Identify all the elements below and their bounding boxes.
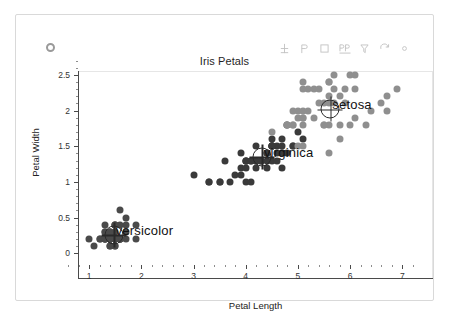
y-tick-minor <box>76 239 78 240</box>
x-tick-minor <box>152 265 153 267</box>
rectangle-select-icon[interactable] <box>318 42 331 55</box>
data-point <box>362 121 369 128</box>
data-point <box>232 171 239 178</box>
data-point <box>326 150 333 157</box>
data-point <box>352 86 359 93</box>
x-tick-minor <box>340 265 341 267</box>
y-axis-line <box>78 71 79 279</box>
y-tick-minor <box>76 139 78 140</box>
y-tick-minor <box>76 96 78 97</box>
pan-icon[interactable] <box>298 42 311 55</box>
x-tick-minor <box>120 265 121 267</box>
data-point <box>321 121 328 128</box>
x-tick <box>89 265 90 269</box>
data-point <box>383 93 390 100</box>
y-tick-minor <box>76 225 78 226</box>
data-point <box>221 157 228 164</box>
x-axis-line <box>78 278 433 279</box>
data-point <box>300 78 307 85</box>
y-tick-minor <box>76 82 78 83</box>
page-title: Iris Petals <box>16 55 433 67</box>
data-point <box>383 107 390 114</box>
x-tick-minor <box>392 265 393 267</box>
data-point <box>122 214 129 221</box>
x-tick <box>194 265 195 269</box>
x-tick-minor <box>79 265 80 267</box>
data-point <box>310 114 317 121</box>
y-tick-label: 2 <box>70 106 75 116</box>
cluster-label: virginica <box>264 144 313 159</box>
x-tick-minor <box>131 265 132 267</box>
x-tick-minor <box>371 265 372 267</box>
y-tick-minor <box>76 132 78 133</box>
axes-move-icon[interactable] <box>278 42 291 55</box>
data-point <box>305 86 312 93</box>
data-point <box>284 121 291 128</box>
y-tick-minor <box>76 232 78 233</box>
data-point <box>394 86 401 93</box>
data-point <box>91 243 98 250</box>
y-tick-label: 1 <box>70 177 75 187</box>
chart-toolbar[interactable] <box>278 42 411 55</box>
x-tick-minor <box>183 265 184 267</box>
data-point <box>378 100 385 107</box>
x-tick-minor <box>329 265 330 267</box>
data-point <box>242 164 249 171</box>
y-tick-minor <box>76 203 78 204</box>
x-tick-minor <box>235 265 236 267</box>
y-tick-minor <box>76 196 78 197</box>
text-annotate-icon[interactable] <box>338 42 351 55</box>
data-point <box>206 178 213 185</box>
y-tick-minor <box>76 125 78 126</box>
data-point <box>331 86 338 93</box>
x-tick-label: 7 <box>400 271 405 281</box>
data-point <box>341 86 348 93</box>
x-tick-minor <box>277 265 278 267</box>
circle-icon[interactable] <box>46 43 55 52</box>
x-tick <box>402 265 403 269</box>
y-tick-minor <box>76 168 78 169</box>
refresh-icon[interactable] <box>378 42 391 55</box>
x-tick-label: 5 <box>296 271 301 281</box>
filter-icon[interactable] <box>358 42 371 55</box>
data-point <box>326 78 333 85</box>
x-tick <box>298 265 299 269</box>
data-point <box>279 164 286 171</box>
x-tick-label: 3 <box>191 271 196 281</box>
data-point <box>117 207 124 214</box>
data-point <box>294 114 301 121</box>
y-tick-minor <box>76 246 78 247</box>
y-tick-minor <box>76 118 78 119</box>
data-point <box>300 136 307 143</box>
data-point <box>352 71 359 78</box>
data-point <box>227 178 234 185</box>
chart-card: Iris Petals 123456700.511.522.5 setosavi… <box>15 14 434 301</box>
data-point <box>336 121 343 128</box>
y-tick-minor <box>76 175 78 176</box>
data-point <box>289 107 296 114</box>
data-point <box>216 178 223 185</box>
y-tick-label: 1.5 <box>70 141 82 151</box>
y-tick-minor <box>76 189 78 190</box>
y-tick-minor <box>76 68 78 69</box>
data-point <box>347 121 354 128</box>
x-tick-minor <box>162 265 163 267</box>
screenshot-root: Iris Petals 123456700.511.522.5 setosavi… <box>0 0 450 321</box>
data-point <box>237 150 244 157</box>
y-tick-minor <box>76 89 78 90</box>
more-options-icon[interactable] <box>398 42 411 55</box>
x-tick-minor <box>225 265 226 267</box>
x-tick-minor <box>361 265 362 267</box>
data-point <box>331 71 338 78</box>
data-point <box>268 128 275 135</box>
y-tick-minor <box>76 61 78 62</box>
x-tick-label: 2 <box>139 271 144 281</box>
y-tick-minor <box>76 210 78 211</box>
x-tick-minor <box>413 265 414 267</box>
data-point <box>268 136 275 143</box>
x-tick-minor <box>308 265 309 267</box>
y-tick-minor <box>76 161 78 162</box>
y-axis-label: Petal Width <box>30 108 41 198</box>
data-point <box>352 114 359 121</box>
data-point <box>279 136 286 143</box>
